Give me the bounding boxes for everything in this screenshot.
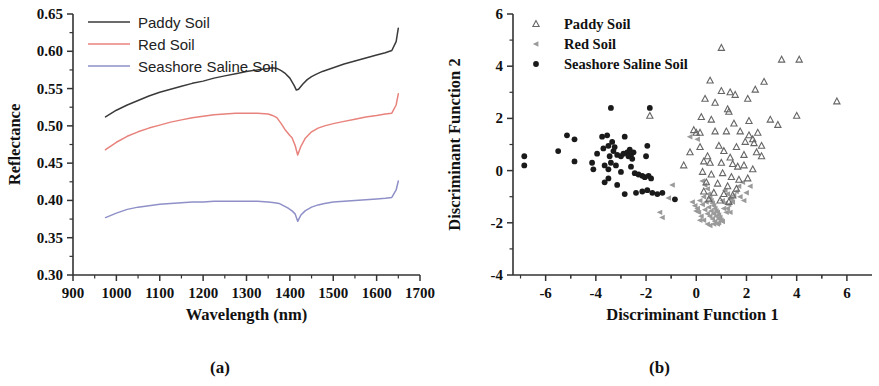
x-axis-title: Discriminant Function 1 [606, 305, 778, 324]
data-point [607, 153, 613, 159]
data-point [605, 166, 611, 172]
data-point [681, 162, 687, 168]
data-point [614, 182, 620, 188]
panel-a-line-chart: 0.300.350.400.450.500.550.600.6590010001… [0, 0, 440, 386]
discriminant-analysis-plot: -4-20246-6-4-20246Discriminant Function … [440, 0, 879, 340]
data-point [608, 105, 614, 111]
data-point [633, 190, 639, 196]
y-tick-label: 6 [496, 6, 504, 22]
data-point [708, 116, 714, 122]
data-point [602, 179, 608, 185]
data-point [704, 153, 710, 159]
data-point [644, 143, 650, 149]
data-point [659, 190, 665, 196]
y-tick-label: -2 [491, 215, 504, 231]
data-point [612, 144, 618, 150]
data-point [751, 140, 757, 146]
y-tick-label: 0.40 [37, 192, 63, 208]
y-axis-title: Reflectance [5, 104, 24, 186]
data-point [750, 166, 756, 172]
data-point [697, 217, 703, 222]
data-point [761, 78, 767, 84]
data-point [736, 176, 742, 182]
legend-label-2: Seashore Saline Soil [138, 58, 277, 75]
data-point [665, 195, 671, 200]
data-point [745, 95, 751, 101]
data-point [613, 162, 619, 168]
data-point [728, 174, 734, 180]
data-point [717, 197, 723, 203]
series-line-1 [106, 94, 399, 155]
data-point [731, 120, 737, 126]
data-point [708, 171, 714, 177]
data-point [718, 45, 724, 51]
x-tick-label: 1700 [405, 285, 435, 301]
data-point [600, 146, 606, 152]
data-point [796, 56, 802, 62]
x-tick-label: 1500 [318, 285, 348, 301]
data-point [730, 161, 736, 167]
y-tick-label: 0.45 [37, 155, 63, 171]
series-points-2 [521, 105, 677, 202]
panel-b-scatter-chart: -4-20246-6-4-20246Discriminant Function … [440, 0, 879, 386]
data-point [669, 182, 675, 187]
data-point [834, 98, 840, 104]
y-tick-label: 0.60 [37, 43, 63, 59]
legend-label-2: Seashore Saline Soil [564, 56, 688, 72]
data-point [689, 199, 695, 204]
x-tick-label: 1000 [101, 285, 131, 301]
data-point [733, 144, 739, 150]
data-point [718, 159, 724, 165]
data-point [604, 132, 610, 138]
data-point [694, 137, 700, 142]
data-point [741, 152, 747, 158]
data-point [647, 112, 653, 118]
data-point [521, 153, 527, 159]
data-point [723, 128, 729, 134]
x-tick-label: 1400 [275, 285, 305, 301]
legend-label-1: Red Soil [138, 36, 195, 53]
legend-marker-2 [533, 61, 539, 67]
data-point [758, 142, 764, 148]
data-point [657, 210, 663, 215]
data-point [572, 136, 578, 142]
data-point [590, 166, 596, 172]
data-point [767, 116, 773, 122]
x-tick-label: 1600 [362, 285, 392, 301]
x-tick-label: 1200 [188, 285, 218, 301]
data-point [794, 112, 800, 118]
x-tick-label: -6 [539, 285, 552, 301]
data-point [746, 132, 752, 138]
y-tick-label: 4 [496, 58, 504, 74]
panel-a-caption: (a) [0, 358, 440, 378]
data-point [594, 151, 600, 157]
data-point [672, 196, 678, 202]
data-point [712, 99, 718, 105]
x-tick-label: -2 [640, 285, 653, 301]
data-point [727, 89, 733, 95]
data-point [718, 88, 724, 94]
data-point [755, 129, 761, 135]
data-point [737, 194, 743, 199]
series-line-2 [106, 181, 399, 221]
data-point [699, 169, 705, 175]
data-point [702, 207, 708, 212]
data-point [745, 175, 751, 181]
x-axis-title: Wavelength (nm) [186, 305, 307, 324]
data-point [714, 180, 720, 186]
data-point [564, 132, 570, 138]
y-tick-label: 0.50 [37, 118, 63, 134]
x-tick-label: 0 [693, 285, 701, 301]
data-point [629, 156, 635, 162]
x-tick-label: 4 [793, 285, 801, 301]
data-point [697, 144, 703, 150]
data-point [555, 148, 561, 154]
data-point [743, 190, 749, 195]
data-point [639, 189, 645, 195]
data-point [697, 198, 703, 203]
data-point [778, 56, 784, 62]
data-point [712, 128, 718, 134]
data-point [572, 159, 578, 165]
y-tick-label: 0.65 [37, 6, 63, 22]
x-tick-label: 900 [62, 285, 85, 301]
